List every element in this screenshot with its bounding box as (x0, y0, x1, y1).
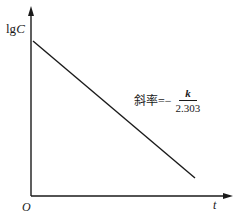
y-axis-label-var: C (16, 21, 25, 36)
slope-denominator: 2.303 (176, 101, 201, 114)
origin-label: O (22, 201, 31, 213)
slope-fraction: k 2.303 (176, 88, 201, 114)
x-axis-label: t (213, 199, 216, 211)
x-axis-arrow-icon (223, 193, 233, 199)
slope-numerator: k (179, 88, 197, 101)
y-axis-arrow-icon (28, 6, 34, 16)
slope-prefix: 斜率=− (134, 95, 172, 107)
y-axis-label-main: lg (6, 21, 16, 36)
y-axis-label: lgC (6, 22, 25, 35)
slope-annotation: 斜率=− k 2.303 (134, 88, 200, 114)
